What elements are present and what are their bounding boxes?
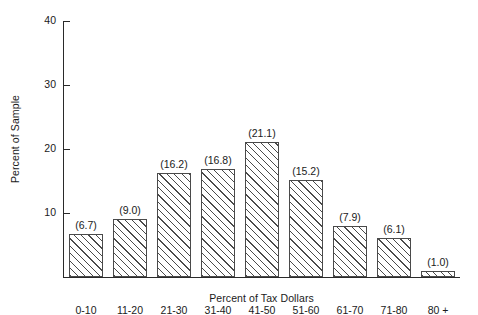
- bar: [245, 142, 279, 277]
- bar-chart-figure: Percent of Sample 10203040 (6.7)0-10(9.0…: [0, 0, 478, 315]
- bar-value-label: (21.1): [235, 127, 289, 139]
- bar-value-label: (7.9): [323, 211, 377, 223]
- y-axis-title: Percent of Sample: [4, 0, 26, 278]
- bar: [113, 219, 147, 277]
- y-axis-tick-label: 40: [22, 14, 56, 26]
- y-axis-tick-label: 10: [22, 206, 56, 218]
- bar-value-label: (9.0): [103, 204, 157, 216]
- bar: [377, 238, 411, 277]
- bar: [333, 226, 367, 277]
- x-axis-line: [63, 277, 460, 278]
- bar-group: (7.9)61-70: [328, 21, 372, 277]
- y-axis-tick-label: 20: [22, 142, 56, 154]
- bar-value-label: (6.7): [59, 219, 113, 231]
- bar-group: (16.2)21-30: [152, 21, 196, 277]
- bar: [421, 271, 455, 277]
- bar-group: (9.0)11-20: [108, 21, 152, 277]
- bar: [201, 169, 235, 277]
- bar-group: (6.7)0-10: [64, 21, 108, 277]
- x-axis-category-label: 80 +: [410, 304, 466, 315]
- bar-group: (16.8)31-40: [196, 21, 240, 277]
- bar-group: (15.2)51-60: [284, 21, 328, 277]
- x-axis-title: Percent of Tax Dollars: [63, 292, 460, 304]
- bar-group: (1.0)80 +: [416, 21, 460, 277]
- bar-value-label: (1.0): [411, 256, 465, 268]
- bar-value-label: (16.8): [191, 154, 245, 166]
- plot-area: (6.7)0-10(9.0)11-20(16.2)21-30(16.8)31-4…: [64, 21, 460, 277]
- bar: [289, 180, 323, 277]
- y-axis-tick-label: 30: [22, 78, 56, 90]
- y-axis-title-label: Percent of Sample: [9, 95, 21, 183]
- bar-group: (6.1)71-80: [372, 21, 416, 277]
- bar: [157, 173, 191, 277]
- bar-value-label: (15.2): [279, 165, 333, 177]
- bar-group: (21.1)41-50: [240, 21, 284, 277]
- bar-value-label: (6.1): [367, 223, 421, 235]
- bar: [69, 234, 103, 277]
